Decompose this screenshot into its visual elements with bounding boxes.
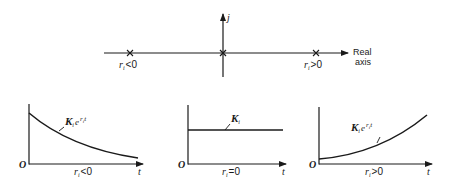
plot-constant: Ki O t ri=0 <box>178 105 286 178</box>
plot-decaying-caption: ri<0 <box>74 166 92 178</box>
s-plane: j Real axis ri<0 ri>0 <box>104 12 372 77</box>
plot-constant-curve-label: Ki <box>230 112 240 125</box>
plot-growing-leader <box>377 137 380 143</box>
plot-growing-curve-label: Kierit <box>350 121 373 134</box>
pole-left-label: ri<0 <box>119 59 137 71</box>
imaginary-axis-label: j <box>225 12 230 23</box>
diagram-canvas: j Real axis ri<0 ri>0 Kierit O t ri<0 <box>0 0 451 192</box>
real-axis-label-line2: axis <box>355 57 372 67</box>
plot-constant-t-label: t <box>282 166 285 177</box>
plot-constant-leader <box>225 124 230 130</box>
plot-growing: Kierit O t ri>0 <box>309 107 432 178</box>
plot-growing-curve <box>319 115 427 159</box>
plot-constant-caption: ri=0 <box>222 166 240 178</box>
plot-growing-t-label: t <box>427 166 430 177</box>
plot-decaying: Kierit O t ri<0 <box>19 104 143 178</box>
plot-decaying-t-label: t <box>138 166 141 177</box>
plot-decaying-leader <box>59 127 64 131</box>
plot-growing-origin-label: O <box>309 159 316 170</box>
plot-constant-origin-label: O <box>178 159 185 170</box>
pole-right-label: ri>0 <box>304 59 322 71</box>
real-axis-label-line1: Real <box>353 47 372 57</box>
plot-growing-caption: ri>0 <box>365 166 383 178</box>
plot-decaying-origin-label: O <box>19 159 26 170</box>
plot-decaying-curve-label: Kierit <box>64 115 87 128</box>
